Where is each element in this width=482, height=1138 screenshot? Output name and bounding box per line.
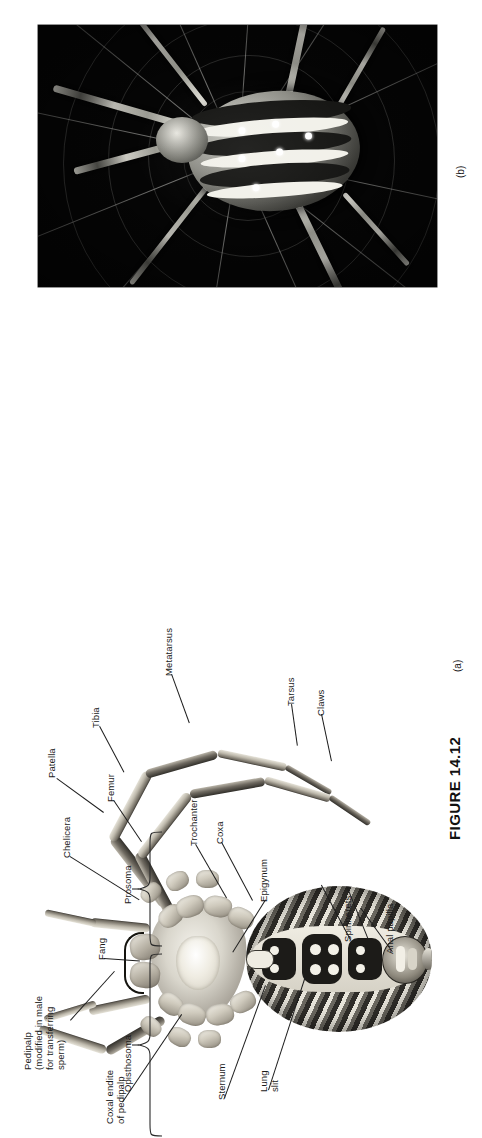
panel-label-a: (a) — [452, 660, 463, 672]
opisthosoma-body — [246, 886, 432, 1032]
label-pedipalp: Pedipalp (modified in male for transferr… — [22, 996, 66, 1070]
label-metatarsus: Metatarsus — [163, 628, 174, 676]
panel-label-b: (b) — [455, 166, 466, 178]
label-chelicera: Chelicera — [61, 817, 72, 858]
label-tibia: Tibia — [90, 707, 101, 728]
label-sternum: Sternum — [216, 1063, 227, 1100]
label-anal-papilla: Anal papilla — [384, 904, 395, 954]
label-lung-slit: Lung slit — [258, 1070, 280, 1092]
leader-metatarsus — [171, 674, 190, 723]
label-opisthosoma: Opisthosoma — [122, 1035, 133, 1092]
epigynum-structure — [246, 950, 274, 969]
brace-opisthosoma — [132, 952, 168, 1138]
brace-prosoma — [132, 830, 168, 948]
spider-photograph — [38, 25, 437, 287]
leader-coxa — [221, 842, 253, 901]
label-prosoma: Prosoma — [122, 865, 133, 904]
label-spinnerets: Spinnerets — [342, 896, 353, 942]
label-patella: Patella — [46, 748, 57, 778]
leader-tarsus — [291, 704, 298, 746]
figure-caption: FIGURE 14.12 — [446, 737, 463, 840]
spider-anatomy-drawing: Patella Tibia Metatarsus Tarsus Claws Fe… — [0, 300, 482, 944]
label-femur: Femur — [105, 774, 116, 802]
anal-papilla-structure — [422, 948, 432, 970]
leader-tibia — [99, 726, 124, 772]
leader-patella — [56, 778, 104, 813]
label-claws: Claws — [315, 690, 326, 716]
label-epigynum: Epigynum — [258, 859, 269, 902]
label-tarsus: Tarsus — [285, 677, 296, 706]
label-coxa: Coxa — [214, 821, 225, 844]
leader-claws — [321, 714, 332, 761]
label-trochanter: Trochanter — [188, 799, 199, 846]
label-fang: Fang — [96, 938, 107, 960]
